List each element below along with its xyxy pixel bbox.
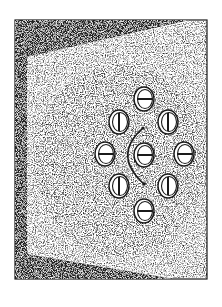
stippled-wall-drawing xyxy=(0,0,222,307)
arrow-start-dot xyxy=(141,126,144,129)
disc-upper-left xyxy=(109,110,129,134)
disc-center xyxy=(134,143,154,167)
disc-middle-right xyxy=(174,142,194,166)
illustration xyxy=(0,0,222,307)
disc-top xyxy=(134,87,154,111)
disc-middle-left xyxy=(95,142,115,166)
arrow-end-dot xyxy=(142,182,146,186)
disc-lower-left xyxy=(109,174,129,198)
disc-bottom xyxy=(134,199,154,223)
left-wall-strip xyxy=(15,20,27,279)
disc-lower-right xyxy=(158,174,178,198)
disc-upper-right xyxy=(158,110,178,134)
